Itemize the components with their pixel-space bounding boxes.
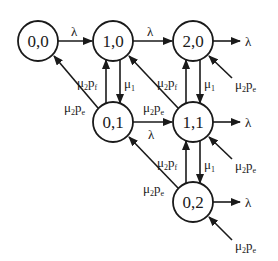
node-0-0: 0,0 (18, 21, 58, 61)
label-lambda-01-11: λ (148, 127, 155, 142)
label-mu2pe-in-20: μ2pe (235, 77, 256, 94)
state-diagram: 0,0 1,0 2,0 0,1 1,1 0,2 λ λ λ λ λ λ μ1 μ… (0, 0, 278, 261)
label-mu2pe-11-10: μ2pe (143, 100, 164, 117)
label-lambda-11-out: λ (245, 115, 252, 130)
label-mu1-10-01: μ1 (124, 76, 135, 93)
edge-in-11 (209, 137, 232, 159)
svg-text:0,2: 0,2 (182, 193, 203, 212)
label-mu2pf-01-10: μ2pf (77, 75, 97, 92)
label-lambda-20-out: λ (245, 34, 252, 49)
node-0-1: 0,1 (93, 102, 133, 142)
node-0-2: 0,2 (173, 182, 213, 222)
node-1-0: 1,0 (93, 21, 133, 61)
label-lambda-00-10: λ (71, 24, 78, 39)
label-lambda-02-out: λ (245, 195, 252, 210)
svg-text:1,0: 1,0 (102, 32, 123, 51)
svg-text:0,0: 0,0 (27, 32, 48, 51)
label-mu2pe-01-00: μ2pe (64, 100, 85, 117)
label-mu1-20-11: μ1 (204, 76, 215, 93)
node-2-0: 2,0 (173, 21, 213, 61)
label-lambda-10-20: λ (147, 24, 154, 39)
label-mu2pe-in-02: μ2pe (235, 238, 256, 255)
edge-in-02 (209, 217, 232, 240)
node-1-1: 1,1 (173, 102, 213, 142)
svg-text:1,1: 1,1 (182, 113, 203, 132)
label-mu2pe-02-01: μ2pe (143, 181, 164, 198)
label-mu2pf-11-20: μ2pf (157, 75, 177, 92)
label-mu2pf-02-11: μ2pf (157, 155, 177, 172)
edge-in-20 (209, 56, 232, 78)
svg-text:0,1: 0,1 (102, 113, 123, 132)
svg-text:2,0: 2,0 (182, 32, 203, 51)
label-mu2pe-in-11: μ2pe (235, 158, 256, 175)
label-mu1-11-02: μ1 (204, 157, 215, 174)
